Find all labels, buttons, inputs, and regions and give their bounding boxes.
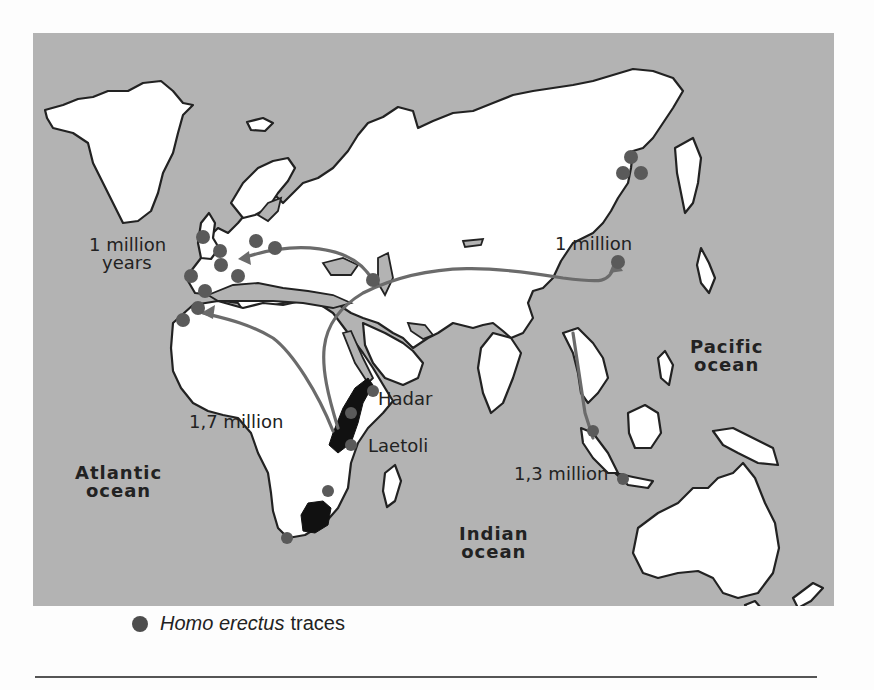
label-hadar: Hadar	[378, 390, 432, 408]
legend-species-name: Homo erectus	[160, 612, 285, 635]
label-africa-1-7-million: 1,7 million	[189, 413, 283, 431]
label-atlantic-ocean: Atlantic ocean	[75, 464, 162, 500]
trace-dot	[366, 273, 380, 287]
trace-dot	[213, 244, 227, 258]
label-pacific-ocean: Pacific ocean	[690, 338, 763, 374]
trace-dot	[617, 473, 629, 485]
legend-text: traces	[291, 612, 345, 635]
label-laetoli: Laetoli	[368, 437, 428, 455]
trace-dot	[184, 269, 198, 283]
madagascar-landmass	[383, 465, 401, 507]
trace-dot	[249, 234, 263, 248]
new-guinea-landmass	[713, 428, 778, 465]
label-line: ocean	[75, 482, 162, 500]
filled-circle-icon	[132, 616, 148, 632]
philippines-landmass	[658, 351, 673, 385]
label-indian-ocean: Indian ocean	[459, 525, 529, 561]
greenland-landmass	[45, 81, 193, 223]
trace-dot	[611, 255, 625, 269]
trace-dot	[231, 269, 245, 283]
australia-landmass	[633, 463, 779, 598]
trace-dot	[616, 166, 630, 180]
label-line: ocean	[459, 543, 529, 561]
trace-dot	[587, 425, 599, 437]
map-graphic	[33, 33, 834, 606]
horizontal-rule	[35, 676, 817, 678]
label-line: years	[89, 254, 166, 272]
japan-landmass	[697, 248, 715, 293]
map-legend: Homo erectus traces	[132, 612, 345, 635]
trace-dot	[198, 284, 212, 298]
trace-dot	[268, 241, 282, 255]
migration-map: 1 million years 1 million 1,7 million 1,…	[33, 33, 834, 606]
india-landmass	[478, 333, 521, 413]
trace-dot	[176, 313, 190, 327]
trace-dot	[322, 485, 334, 497]
trace-dot	[634, 166, 648, 180]
trace-dot	[191, 301, 205, 315]
iceland-landmass	[247, 118, 273, 131]
southeast-asia-landmass	[563, 328, 608, 403]
trace-dot	[345, 407, 357, 419]
label-europe-1-million: 1 million years	[89, 236, 166, 272]
lake-balkhash	[463, 239, 483, 247]
trace-dot	[624, 150, 638, 164]
trace-dot	[281, 532, 293, 544]
kamchatka-landmass	[675, 138, 701, 213]
borneo-landmass	[628, 405, 661, 448]
label-line: ocean	[690, 356, 763, 374]
trace-dot	[196, 230, 210, 244]
trace-dot	[345, 439, 357, 451]
new-zealand-south-landmass	[793, 583, 823, 606]
tasmania-landmass	[745, 601, 761, 606]
label-china-1-million: 1 million	[555, 235, 632, 253]
trace-dot	[214, 258, 228, 272]
label-java-1-3-million: 1,3 million	[514, 465, 608, 483]
